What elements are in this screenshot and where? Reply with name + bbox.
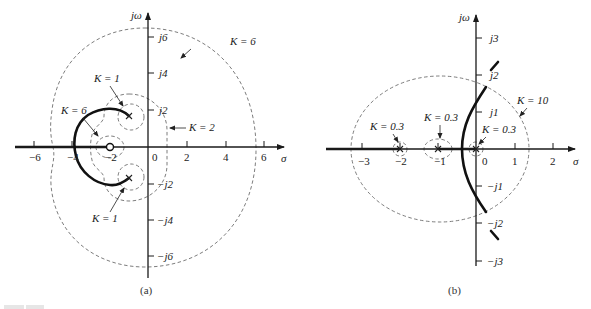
real-tick-label: 2 (550, 155, 556, 167)
annotation-k1-lower: K = 1 (91, 212, 118, 224)
figure-label-fragment (4, 305, 44, 309)
real-tick-label: 0 (152, 151, 158, 163)
pole-marker (126, 113, 132, 119)
contour-k1-upper (118, 104, 144, 130)
imag-tick-label: −j2 (157, 178, 173, 190)
annotation-k03-mid: K = 0.3 (423, 111, 459, 123)
root-locus-figure: −6 −4 −2 0 2 4 6 σ j6 j4 j2 −j2 −j4 −j6 … (0, 0, 591, 309)
real-tick-label: 4 (223, 151, 229, 163)
annotation-k03-left: K = 0.3 (369, 120, 405, 132)
imag-tick-label: j6 (157, 31, 168, 43)
imag-tick-label: −j2 (487, 217, 503, 229)
real-axis-label: σ (281, 152, 287, 164)
real-tick-label: −3 (358, 155, 370, 167)
panel-a: −6 −4 −2 0 2 4 6 σ j6 j4 j2 −j2 −j4 −j6 … (15, 9, 287, 297)
imag-tick-label: −j1 (487, 180, 503, 192)
real-tick-label: 0 (482, 155, 488, 167)
panel-caption-a: (a) (140, 284, 153, 297)
real-tick-label: −2 (395, 155, 407, 167)
real-tick-label: −1 (434, 155, 446, 167)
real-tick-label: −2 (105, 151, 117, 163)
imag-axis-label: jω (129, 9, 142, 21)
imag-axis-label: jω (457, 11, 470, 23)
real-tick-label: −6 (29, 151, 41, 163)
annotation-k10: K = 10 (516, 94, 549, 106)
contour-k1-lower (118, 164, 144, 190)
zero-marker (107, 144, 114, 151)
annotation-k03-origin: K = 0.3 (481, 123, 517, 135)
imag-tick-label: −j6 (157, 250, 173, 262)
annotation-k6-inner: K = 6 (60, 104, 87, 116)
annotation-k1-upper: K = 1 (93, 72, 120, 84)
annotation-k6-outer: K = 6 (229, 35, 256, 47)
panel-caption-b: (b) (448, 284, 461, 297)
imag-tick-label: −j3 (487, 255, 503, 267)
imag-tick-label: j1 (488, 106, 499, 118)
leader-k6-inner (83, 118, 98, 136)
imag-tick-label: j3 (488, 32, 499, 44)
real-tick-label: 2 (184, 151, 190, 163)
leader-k1-upper (110, 86, 123, 106)
imag-tick-label: −j4 (157, 214, 173, 226)
leader-k03-origin (479, 137, 486, 144)
leader-k10 (520, 108, 527, 116)
real-tick-label: 1 (512, 155, 518, 167)
leader-k03-left (393, 134, 398, 142)
real-tick-label: −4 (67, 151, 79, 163)
imag-tick-label: j4 (157, 67, 168, 79)
leader-k6-outer (181, 49, 191, 58)
imag-tick-label: j2 (157, 104, 168, 116)
root-locus-asymptote-lower (491, 231, 498, 239)
imag-tick-label: j2 (488, 69, 499, 81)
panel-b: −3 −2 −1 0 1 2 σ j3 j2 j1 −j1 −j2 −j3 jω… (326, 11, 579, 297)
real-tick-label: 6 (261, 151, 267, 163)
real-axis-label: σ (573, 155, 579, 167)
annotation-k2: K = 2 (188, 121, 215, 133)
